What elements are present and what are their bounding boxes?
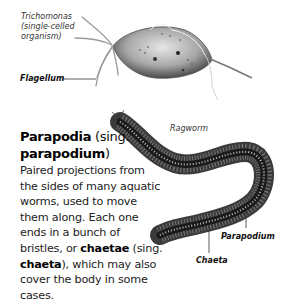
flagellum-label: Flagellum <box>20 74 64 83</box>
caption-line: organism) <box>21 32 74 42</box>
body-text: (sing. <box>129 242 162 255</box>
definition-heading: Parapodia (sing. parapodium) <box>20 128 150 162</box>
ragworm-caption: Ragworm <box>170 124 208 134</box>
heading-text: ) <box>105 146 110 161</box>
caption-line: Trichomonas <box>21 12 74 22</box>
chaeta-label: Chaeta <box>196 256 228 265</box>
term-chaeta: chaeta <box>20 258 61 271</box>
caption-line: (single-celled <box>21 22 74 32</box>
term-parapodia: Parapodia <box>20 129 91 144</box>
trichomonas-caption: Trichomonas (single-celled organism) <box>21 12 74 42</box>
heading-text: (sing. <box>91 129 129 144</box>
term-chaetae: chaetae <box>80 242 129 255</box>
definition-body: Paired projections from the sides of man… <box>20 163 165 303</box>
parapodium-label: Parapodium <box>221 232 275 241</box>
term-parapodium: parapodium <box>20 146 105 161</box>
trichomonas-body <box>113 24 252 100</box>
trichomonas-flagella <box>75 17 118 86</box>
